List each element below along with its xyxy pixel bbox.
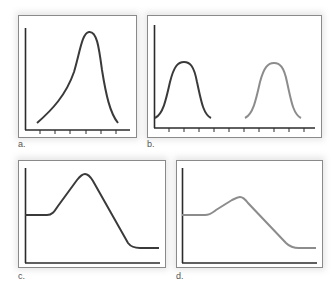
panel-b-label: b. — [147, 139, 155, 149]
panel-c-chart — [25, 168, 160, 263]
panel-b-curve-dark — [155, 62, 211, 118]
panel-c-curve — [25, 174, 159, 248]
panel-d-chart — [182, 168, 317, 263]
panel-d-curve — [182, 197, 316, 248]
panel-a-chart — [25, 28, 130, 134]
panel-d-label: d. — [176, 271, 184, 281]
panel-b-chart — [154, 25, 315, 132]
panel-a-curve — [37, 32, 118, 123]
figure-plots — [0, 0, 333, 291]
panel-c-label: c. — [18, 271, 25, 281]
panel-a-label: a. — [18, 139, 26, 149]
panel-b-curve-gray — [245, 63, 301, 118]
